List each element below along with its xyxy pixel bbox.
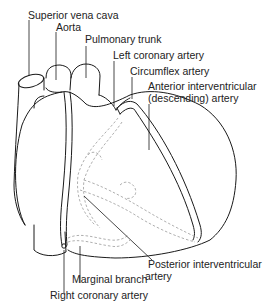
label-right-coronary-artery: Right coronary artery (50, 289, 148, 301)
label-pulmonary-trunk: Pulmonary trunk (85, 33, 161, 45)
label-superior-vena-cava: Superior vena cava (28, 9, 118, 21)
heart-outline (16, 92, 237, 258)
posterior-vessels-dashed (68, 118, 198, 247)
heart-coronary-diagram: Superior vena cava Aorta Pulmonary trunk… (0, 0, 266, 307)
right-coronary-artery-shape (61, 92, 67, 245)
label-circumflex-artery: Circumflex artery (130, 65, 209, 77)
label-anterior-interventricular-2: (descending) artery (148, 92, 238, 104)
label-left-coronary-artery: Left coronary artery (113, 49, 204, 61)
label-posterior-interventricular-2: artery (145, 270, 172, 282)
superior-vena-cava-shape (14, 72, 45, 225)
label-aorta: Aorta (56, 21, 81, 33)
pulmonary-trunk-shape (71, 64, 116, 110)
label-marginal-branch: Marginal branch (72, 273, 147, 285)
label-anterior-interventricular-1: Anterior interventricular (148, 80, 257, 92)
label-posterior-interventricular-1: Posterior interventricular (148, 258, 262, 270)
anterior-interventricular-shape (117, 101, 201, 242)
